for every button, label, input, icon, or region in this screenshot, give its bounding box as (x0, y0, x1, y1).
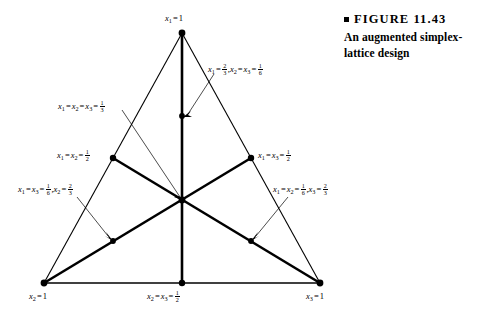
figure-caption-title-row: FIGURE 11.43 (344, 12, 476, 27)
equals-sign: = (92, 101, 99, 111)
leader-axial-lower-left (77, 197, 108, 236)
fraction-denominator: 3 (222, 70, 227, 77)
label-edge-mid-x1x3: x1=x3=12 (258, 149, 291, 163)
median-left-to-right-edge (44, 158, 251, 283)
point-edge-mid-x1x2 (110, 155, 116, 161)
leader-centroid (122, 110, 180, 197)
label-vertex-x2: x2=1 (29, 292, 47, 302)
label-axial-lower-left: x1=x3=16,x2=23 (18, 183, 73, 197)
fraction-denominator: 2 (85, 156, 90, 163)
fraction: 12 (175, 290, 180, 304)
equals-sign: = (60, 184, 67, 194)
fraction: 23 (323, 183, 328, 197)
label-edge-mid-x2x3: x2=x3=12 (147, 290, 180, 304)
point-vertex-x3 (317, 280, 324, 287)
point-centroid (179, 197, 186, 204)
equals-sign: = (64, 150, 71, 160)
figure-caption-description: An augmented simplex-lattice design (344, 30, 476, 61)
fraction-denominator: 2 (175, 297, 180, 304)
label-axial-top: x1=23,x2=x3=16 (208, 63, 263, 77)
equals-sign: = (65, 101, 72, 111)
equals-sign: = (154, 291, 161, 301)
fraction: 16 (258, 63, 263, 77)
fraction-denominator: 6 (258, 70, 263, 77)
equals-sign: = (215, 64, 222, 74)
fraction: 12 (286, 149, 291, 163)
label-vertex-x1: x1=1 (165, 14, 183, 24)
equals-sign: = (250, 64, 257, 74)
label-vertex-x3: x3=1 (306, 292, 324, 302)
label-value: 1 (320, 291, 324, 301)
fraction: 13 (100, 100, 105, 114)
fraction-denominator: 3 (68, 190, 73, 197)
equals-sign: = (25, 184, 32, 194)
figure-caption: FIGURE 11.43 An augmented simplex-lattic… (344, 12, 476, 61)
label-centroid: x1=x2=x3=13 (58, 100, 105, 114)
leader-axial-top (188, 74, 214, 114)
label-value: 1 (43, 291, 47, 301)
equals-sign: = (39, 184, 46, 194)
point-axial-lower-right (248, 238, 254, 244)
equals-sign: = (168, 291, 175, 301)
fraction-denominator: 3 (100, 107, 105, 114)
label-edge-mid-x1x2: x1=x2=12 (57, 149, 90, 163)
equals-sign: = (237, 64, 244, 74)
point-axial-lower-left (110, 238, 116, 244)
point-axial-top (179, 113, 185, 119)
equals-sign: = (313, 291, 320, 301)
equals-sign: = (315, 184, 322, 194)
point-edge-mid-x2x3 (179, 280, 185, 286)
fraction-denominator: 2 (286, 156, 291, 163)
equals-sign: = (280, 184, 287, 194)
median-right-to-left-edge (113, 158, 320, 283)
figure-container: x1=1 x2=1 x3=1 x2=x3=12 x1=x2=12 x1=x3=1… (0, 0, 478, 315)
square-bullet-icon (344, 17, 349, 22)
fraction-denominator: 3 (323, 190, 328, 197)
fraction: 12 (85, 149, 90, 163)
point-edge-mid-x1x3 (248, 155, 254, 161)
equals-sign: = (294, 184, 301, 194)
fraction: 23 (222, 63, 227, 77)
figure-number-label: FIGURE 11.43 (354, 12, 446, 27)
fraction: 23 (68, 183, 73, 197)
point-vertex-x2 (41, 280, 48, 287)
point-vertex-x1 (179, 30, 186, 37)
label-value: 1 (179, 13, 183, 23)
equals-sign: = (78, 150, 85, 160)
equals-sign: = (36, 291, 43, 301)
equals-sign: = (265, 150, 272, 160)
equals-sign: = (172, 13, 179, 23)
label-axial-lower-right: x1=x2=16,x3=23 (273, 183, 328, 197)
equals-sign: = (279, 150, 286, 160)
